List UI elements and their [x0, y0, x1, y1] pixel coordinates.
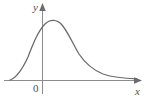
plot-svg	[0, 0, 146, 108]
distribution-curve	[10, 20, 137, 80]
figure-container: y x 0	[0, 0, 146, 108]
origin-label: 0	[33, 83, 39, 94]
x-axis-label: x	[135, 86, 140, 97]
y-axis-label: y	[33, 2, 38, 13]
y-axis-arrowhead	[39, 3, 45, 11]
